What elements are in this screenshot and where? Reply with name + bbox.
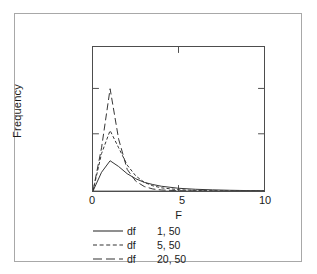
chart-legend: df 1, 50 df 5, 50 df 20, 50 — [93, 224, 283, 266]
x-tick-label-10: 10 — [253, 194, 277, 206]
legend-value-3: 20, 50 — [157, 253, 186, 265]
legend-value-2: 5, 50 — [157, 239, 180, 251]
series-line-3 — [93, 89, 264, 191]
legend-prefix-1: df — [127, 225, 147, 237]
legend-item-df-1-50: df 1, 50 — [93, 224, 283, 237]
plot-curves-svg — [93, 47, 264, 191]
legend-line-solid-icon — [93, 226, 123, 236]
legend-prefix-2: df — [127, 239, 147, 251]
legend-value-1: 1, 50 — [157, 225, 180, 237]
x-tick-label-5: 5 — [170, 194, 194, 206]
legend-line-long-dashed-icon — [93, 254, 123, 264]
legend-line-short-dashed-icon — [93, 240, 123, 250]
figure-outer-frame: Frequency 0 5 10 F df 1, 50 df 5, 50 — [14, 13, 302, 262]
series-paths — [93, 89, 264, 191]
legend-item-df-5-50: df 5, 50 — [93, 238, 283, 251]
legend-item-df-20-50: df 20, 50 — [93, 252, 283, 265]
y-axis-title: Frequency — [11, 66, 23, 156]
x-axis-title: F — [92, 209, 265, 221]
legend-prefix-3: df — [127, 253, 147, 265]
plot-area — [92, 46, 265, 192]
axis-tick-marks — [93, 47, 264, 191]
x-tick-label-0: 0 — [80, 194, 104, 206]
